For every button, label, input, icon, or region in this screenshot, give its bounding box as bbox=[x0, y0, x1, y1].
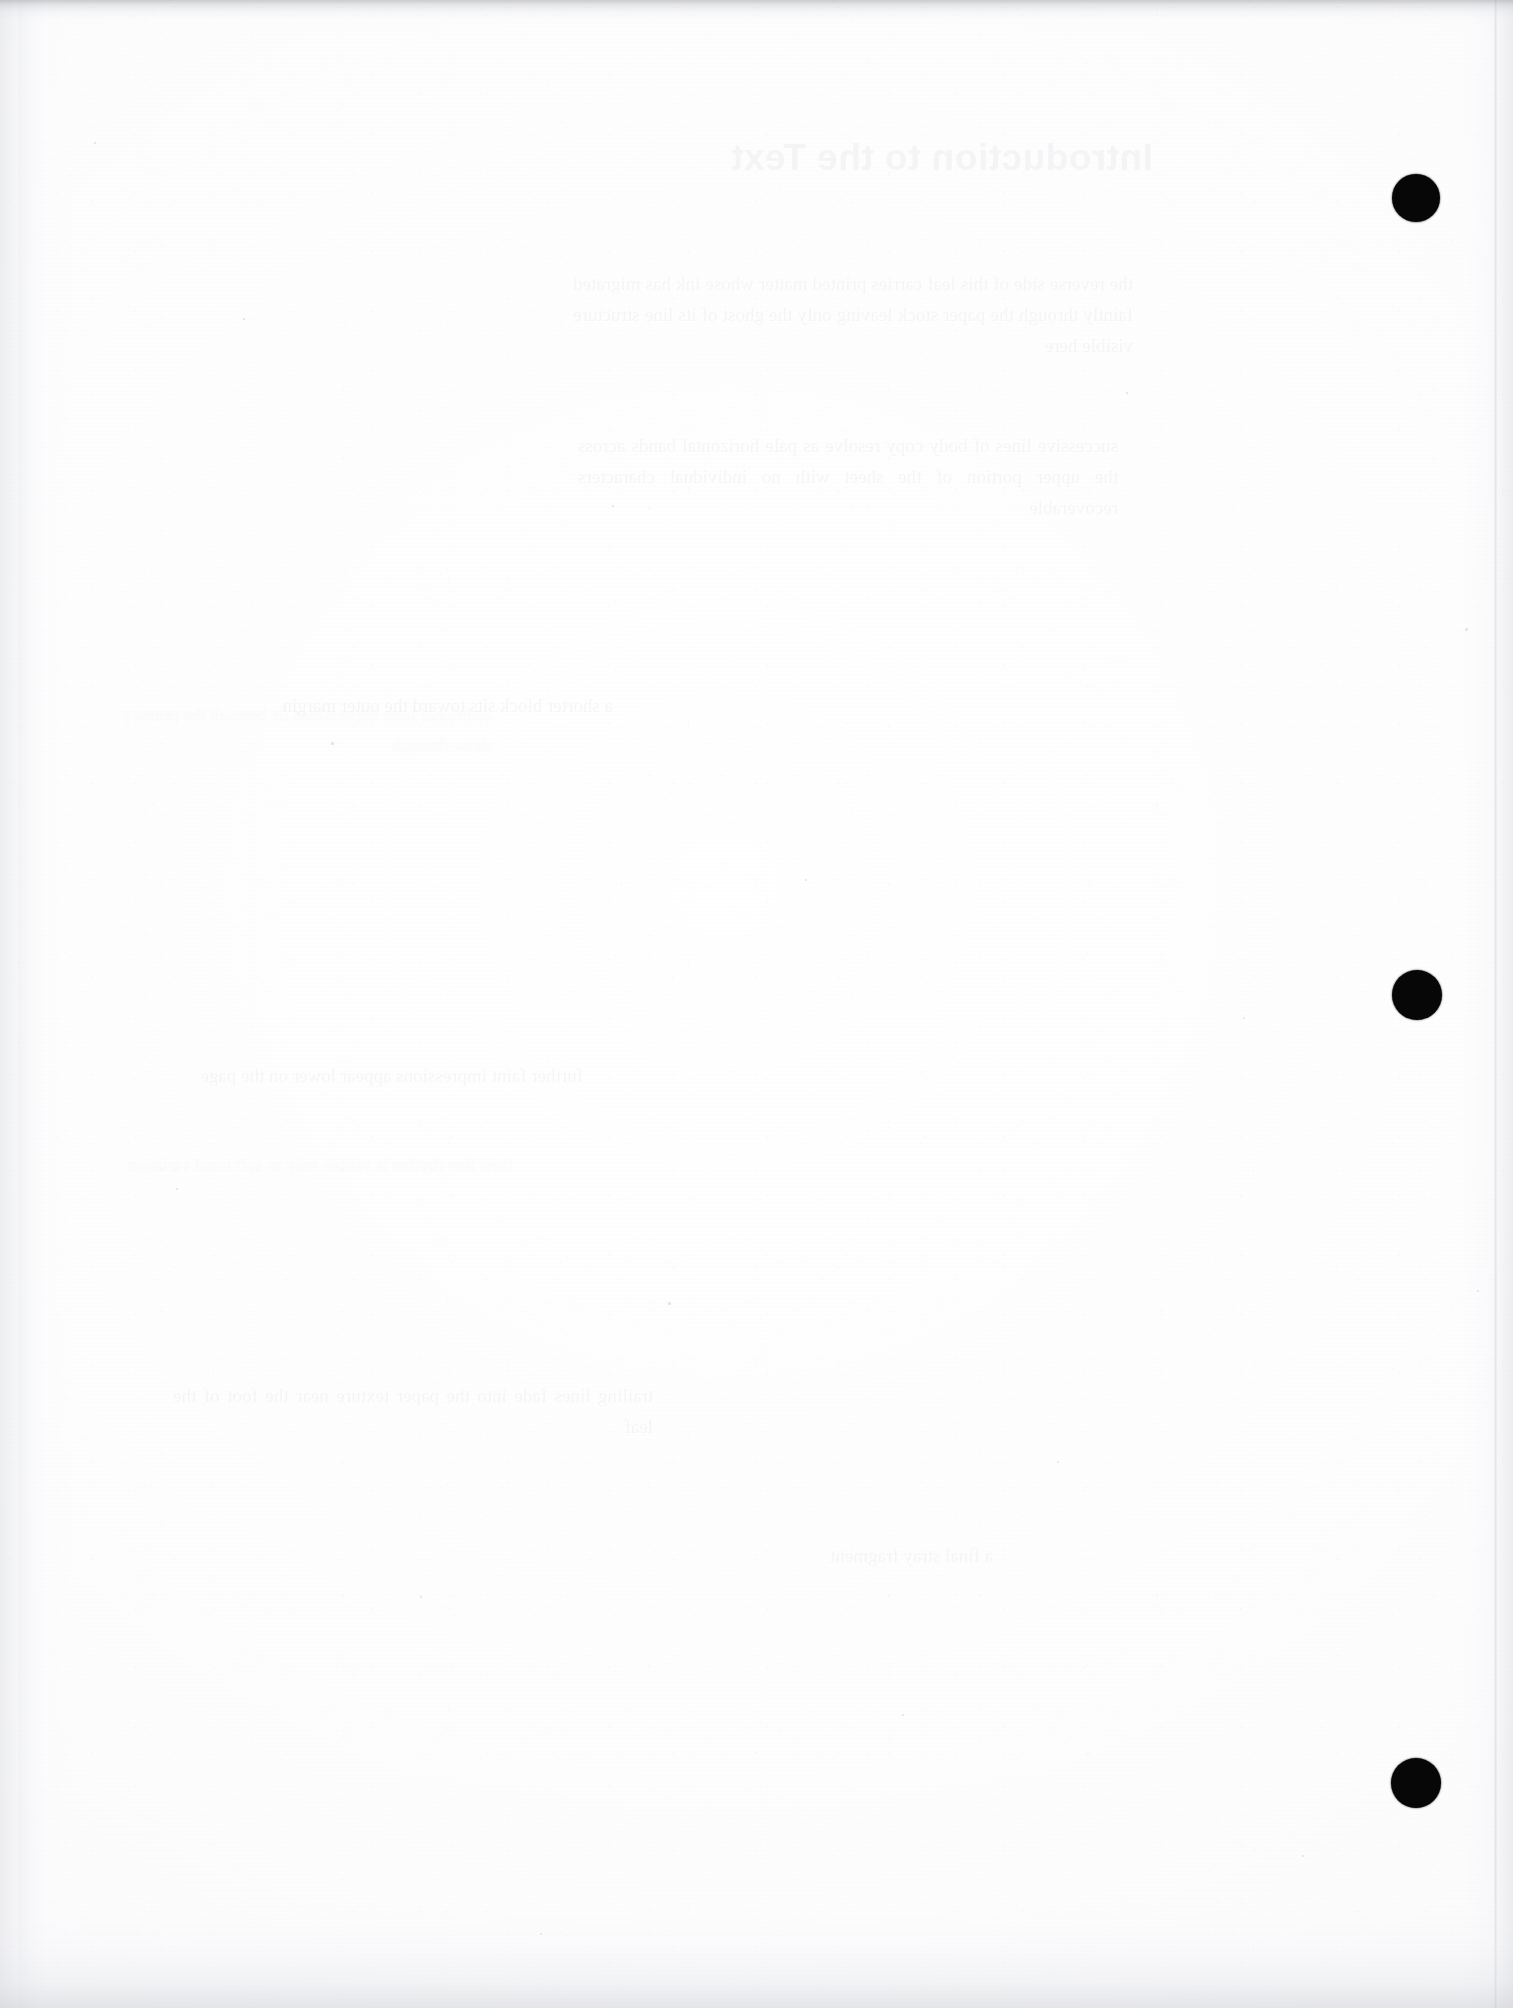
scan-speck bbox=[1243, 1017, 1245, 1019]
scanned-page: Introduction to the Text the reverse sid… bbox=[0, 0, 1513, 2008]
scan-speck bbox=[1057, 1461, 1059, 1463]
scan-speck bbox=[1126, 392, 1128, 394]
scan-speck bbox=[1465, 628, 1468, 631]
scan-speck bbox=[668, 1302, 671, 1305]
scan-speck bbox=[243, 318, 245, 320]
scan-speck bbox=[1477, 1290, 1479, 1292]
scan-speck bbox=[805, 879, 807, 881]
registration-dot bbox=[1391, 1758, 1441, 1808]
registration-dot bbox=[1392, 174, 1440, 222]
scan-speck bbox=[612, 505, 614, 507]
scan-speck bbox=[94, 142, 96, 144]
paper-surface bbox=[0, 0, 1513, 2008]
scan-speck bbox=[331, 742, 334, 745]
registration-dot bbox=[1392, 970, 1442, 1020]
scan-speck bbox=[1302, 1855, 1304, 1857]
scan-speck bbox=[176, 1188, 178, 1190]
scan-speck bbox=[420, 1596, 422, 1598]
scan-speck bbox=[540, 1933, 542, 1935]
scan-speck bbox=[902, 1714, 904, 1716]
